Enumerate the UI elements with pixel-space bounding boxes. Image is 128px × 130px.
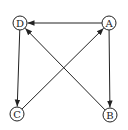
edge-a-to-b <box>109 30 110 108</box>
edge-b-to-d <box>25 28 105 110</box>
node-b: B <box>103 108 117 122</box>
node-label: D <box>16 18 24 29</box>
node-c: C <box>10 107 24 121</box>
node-label: C <box>13 109 21 120</box>
node-a: A <box>102 16 116 30</box>
node-d: D <box>13 16 27 30</box>
graph-canvas: ABCD <box>0 0 128 130</box>
edges <box>17 23 110 110</box>
node-label: A <box>104 18 113 29</box>
edge-d-to-c <box>17 30 20 107</box>
edge-c-to-a <box>22 28 104 109</box>
graph-svg: ABCD <box>0 0 128 130</box>
node-label: B <box>106 110 113 121</box>
